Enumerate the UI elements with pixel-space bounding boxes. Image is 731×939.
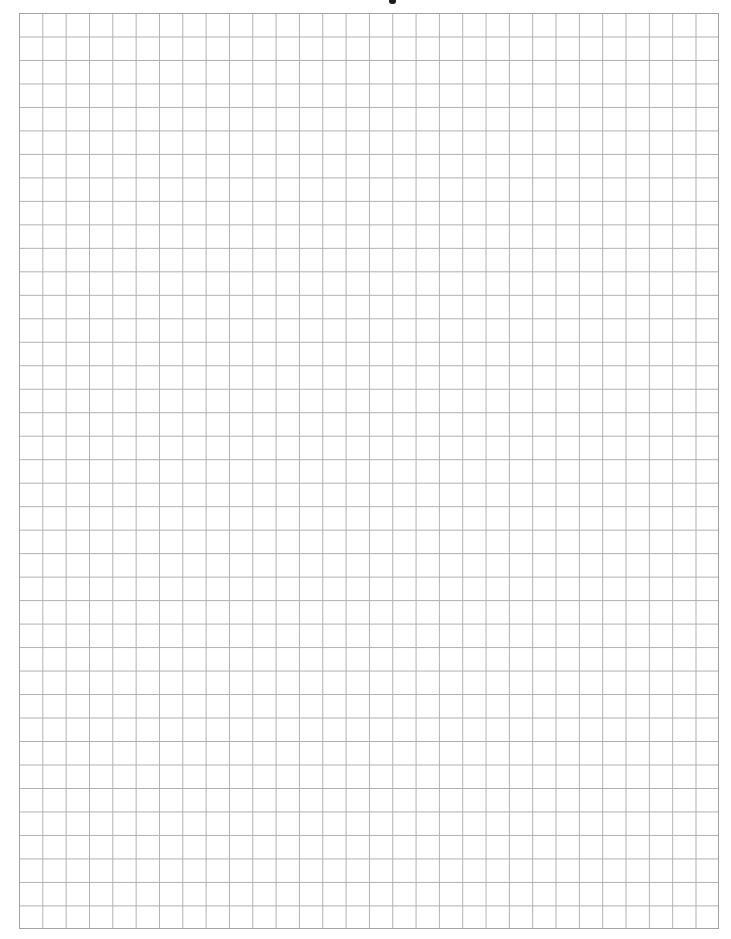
header-text-fragment bbox=[389, 0, 396, 4]
graph-paper-page bbox=[0, 0, 731, 939]
graph-grid bbox=[19, 13, 719, 929]
